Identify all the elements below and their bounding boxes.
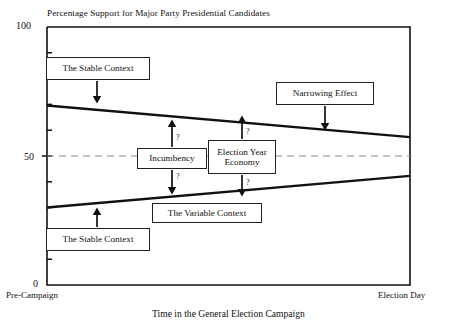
question-mark-incumbency-down: ?	[176, 172, 180, 181]
x-axis-label-pre-campaign: Pre-Campaign	[6, 291, 58, 300]
annotation-box-variable-context: The Variable Context	[152, 203, 262, 223]
chart-figure: Percentage Support for Major Party Presi…	[0, 0, 451, 329]
question-mark-incumbency-up: ?	[176, 133, 180, 142]
annotation-box-stable-context-top: The Stable Context	[46, 57, 150, 80]
annotation-box-incumbency: Incumbency	[137, 148, 207, 169]
economy-label-line-2: Economy	[224, 157, 259, 167]
y-axis-tick-label-0: 0	[33, 279, 38, 289]
y-axis-tick-label-100: 100	[16, 21, 31, 31]
x-axis-title: Time in the General Election Campaign	[152, 309, 305, 319]
y-axis-tick-label-50: 50	[24, 152, 34, 162]
chart-title: Percentage Support for Major Party Presi…	[47, 9, 270, 18]
x-axis-label-election-day: Election Day	[378, 291, 425, 300]
question-mark-economy-up: ?	[246, 127, 250, 136]
annotation-box-narrowing-effect: Narrowing Effect	[276, 82, 374, 105]
economy-label-line-1: Election Year	[217, 147, 267, 157]
annotation-box-stable-context-bottom: The Stable Context	[46, 228, 150, 251]
annotation-box-election-year-economy: Election Year Economy	[208, 140, 276, 174]
question-mark-economy-down: ?	[246, 178, 250, 187]
series-leading-candidate	[47, 106, 410, 138]
